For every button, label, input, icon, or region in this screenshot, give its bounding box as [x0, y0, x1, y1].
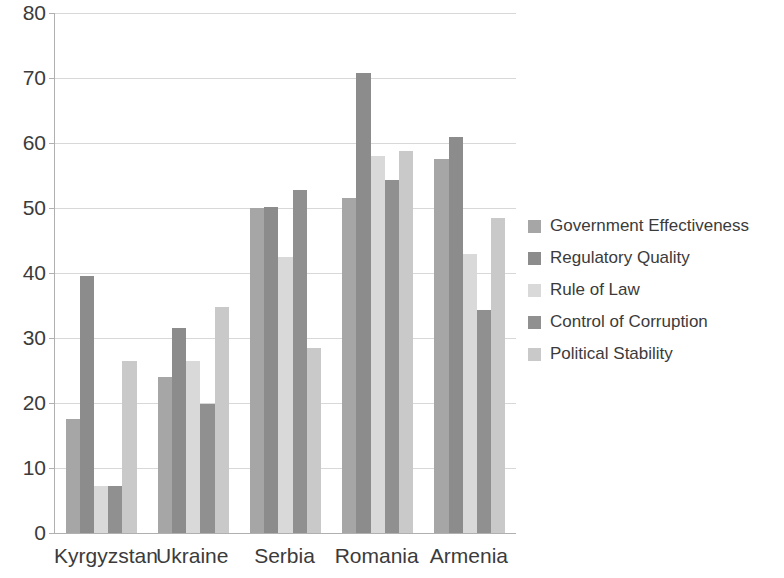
bar: [108, 486, 122, 533]
bar: [463, 254, 477, 534]
x-category-label: Armenia: [423, 543, 515, 569]
y-tick-label: 50: [0, 197, 46, 218]
x-category-label: Serbia: [238, 543, 330, 569]
legend-label: Regulatory Quality: [550, 248, 690, 268]
plot-area: [54, 13, 516, 534]
bar: [278, 257, 292, 533]
legend-swatch-icon: [528, 348, 541, 361]
bar: [434, 159, 448, 533]
y-tick-label: 20: [0, 392, 46, 413]
y-tick-label: 70: [0, 67, 46, 88]
bar: [250, 208, 264, 533]
legend: Government EffectivenessRegulatory Quali…: [528, 210, 780, 370]
bar-chart: 01020304050607080 KyrgyzstanUkraineSerbi…: [0, 0, 784, 578]
y-axis: 01020304050607080: [0, 0, 46, 578]
legend-label: Government Effectiveness: [550, 216, 749, 236]
legend-item[interactable]: Government Effectiveness: [528, 210, 780, 242]
bar: [491, 218, 505, 533]
bar: [293, 190, 307, 533]
x-axis: KyrgyzstanUkraineSerbiaRomaniaArmenia: [54, 543, 515, 577]
bar: [66, 419, 80, 533]
y-tick-label: 0: [0, 522, 46, 543]
y-tick-label: 40: [0, 262, 46, 283]
x-category-label: Romania: [331, 543, 423, 569]
bar-group: [55, 13, 147, 533]
bar: [371, 156, 385, 533]
legend-swatch-icon: [528, 316, 541, 329]
bar: [122, 361, 136, 533]
x-category-label: Kyrgyzstan: [54, 543, 146, 569]
bar: [449, 137, 463, 534]
bar: [215, 307, 229, 533]
y-tick-label: 30: [0, 327, 46, 348]
bar: [172, 328, 186, 533]
legend-swatch-icon: [528, 252, 541, 265]
x-category-label: Ukraine: [146, 543, 238, 569]
legend-swatch-icon: [528, 220, 541, 233]
bar: [186, 361, 200, 533]
bar: [264, 207, 278, 533]
legend-item[interactable]: Regulatory Quality: [528, 242, 780, 274]
legend-label: Control of Corruption: [550, 312, 708, 332]
legend-label: Rule of Law: [550, 280, 640, 300]
bar: [307, 348, 321, 533]
legend-label: Political Stability: [550, 344, 673, 364]
bar: [356, 73, 370, 533]
y-tick-label: 10: [0, 457, 46, 478]
legend-item[interactable]: Political Stability: [528, 338, 780, 370]
legend-swatch-icon: [528, 284, 541, 297]
bar: [200, 404, 214, 533]
y-axis-tick: [49, 533, 55, 534]
y-tick-label: 60: [0, 132, 46, 153]
bar: [477, 310, 491, 533]
y-tick-label: 80: [0, 2, 46, 23]
bar-group: [424, 13, 516, 533]
bar-group: [332, 13, 424, 533]
bar-group: [239, 13, 331, 533]
bar-groups: [55, 13, 516, 533]
bar: [158, 377, 172, 533]
bar: [385, 180, 399, 533]
legend-item[interactable]: Rule of Law: [528, 274, 780, 306]
bar: [399, 151, 413, 533]
bar: [342, 198, 356, 533]
bar-group: [147, 13, 239, 533]
legend-item[interactable]: Control of Corruption: [528, 306, 780, 338]
bar: [94, 486, 108, 533]
bar: [80, 276, 94, 533]
